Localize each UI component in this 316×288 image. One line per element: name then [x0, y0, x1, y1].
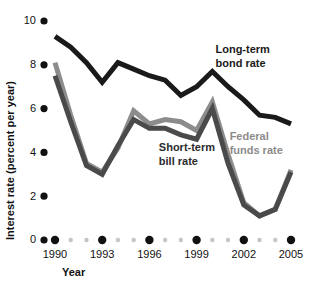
x-axis-title: Year — [62, 266, 86, 278]
x-minor-tick-dot — [69, 238, 73, 242]
x-tick-label: 1999 — [184, 248, 208, 260]
x-tick-label: 1996 — [137, 248, 161, 260]
x-minor-tick-dot — [84, 238, 88, 242]
series-annotation-label: funds rate — [230, 144, 283, 156]
y-tick-label: 10 — [24, 14, 36, 26]
x-minor-tick-dot — [257, 238, 261, 242]
x-tick-label: 1993 — [90, 248, 114, 260]
x-major-tick-dot — [240, 236, 248, 244]
y-tick-label: 4 — [30, 146, 36, 158]
series-labels: Long-termbond rateShort-termbill rateFed… — [159, 43, 283, 168]
y-tick-label: 0 — [30, 233, 36, 245]
series-annotation-label: Short-term — [159, 141, 215, 153]
y-tick-dot — [40, 236, 47, 243]
y-tick-label: 2 — [30, 190, 36, 202]
series-annotation-label: bill rate — [159, 155, 198, 167]
y-axis-ticks: 0246810 — [24, 14, 48, 245]
x-tick-label: 1990 — [43, 248, 67, 260]
series-annotation-label: bond rate — [215, 57, 265, 69]
x-major-tick-dot — [51, 236, 59, 244]
x-major-tick-dot — [192, 236, 200, 244]
x-major-tick-dot — [145, 236, 153, 244]
series-annotation-label: Federal — [230, 130, 269, 142]
x-minor-tick-dot — [226, 238, 230, 242]
y-axis-title: Interest rate (percent per year) — [4, 81, 16, 240]
x-tick-label: 2002 — [232, 248, 256, 260]
y-tick-dot — [40, 17, 47, 24]
y-tick-label: 8 — [30, 58, 36, 70]
y-tick-dot — [40, 105, 47, 112]
x-minor-tick-dot — [210, 238, 214, 242]
chart-canvas: 0246810 199019931996199920022005 Long-te… — [0, 0, 316, 288]
series-annotation-label: Long-term — [215, 43, 270, 55]
x-minor-tick-dot — [116, 238, 120, 242]
y-tick-label: 6 — [30, 102, 36, 114]
x-minor-tick-dot — [273, 238, 277, 242]
x-minor-tick-dot — [179, 238, 183, 242]
x-major-tick-dot — [98, 236, 106, 244]
x-minor-tick-dot — [163, 238, 167, 242]
x-major-tick-dot — [287, 236, 295, 244]
x-tick-label: 2005 — [279, 248, 303, 260]
y-tick-dot — [40, 149, 47, 156]
y-tick-dot — [40, 193, 47, 200]
x-minor-tick-dot — [131, 238, 135, 242]
x-axis-ticks: 199019931996199920022005 — [43, 236, 303, 260]
interest-rate-chart: 0246810 199019931996199920022005 Long-te… — [0, 0, 316, 288]
y-tick-dot — [40, 61, 47, 68]
